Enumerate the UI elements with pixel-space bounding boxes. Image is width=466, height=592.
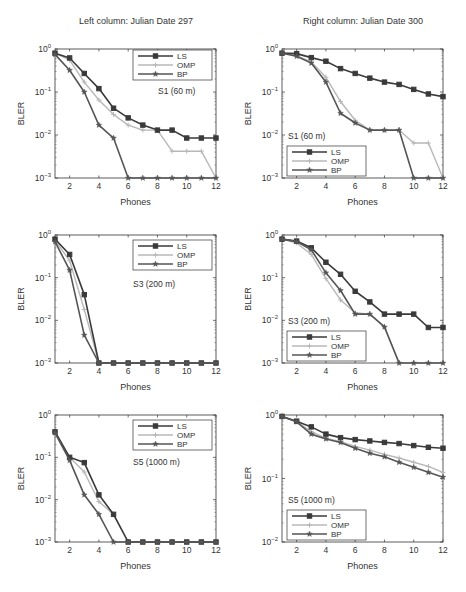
x-tick-label: 10 (182, 181, 192, 191)
square-marker (441, 446, 445, 450)
legend-label: LS (177, 52, 187, 61)
square-marker (368, 300, 372, 304)
square-marker (67, 56, 71, 60)
y-tick-label: 10−1 (262, 272, 279, 283)
x-tick-label: 6 (126, 181, 131, 191)
x-tick-label: 8 (382, 545, 387, 555)
x-tick-label: 2 (67, 181, 72, 191)
square-marker (307, 335, 311, 339)
subplot-top-left: 2468101210−310−210−1100PhonesBLERS1 (60 … (16, 43, 221, 207)
y-tick-label: 10−3 (35, 172, 52, 183)
legend: LSOMPBP (133, 420, 212, 450)
square-marker (368, 76, 372, 80)
x-tick-label: 6 (126, 545, 131, 555)
x-tick-label: 2 (294, 545, 299, 555)
square-marker (441, 325, 445, 329)
x-tick-label: 8 (155, 181, 160, 191)
x-tick-label: 6 (353, 545, 358, 555)
x-tick-label: 10 (409, 366, 419, 376)
y-tick-label: 10−3 (35, 357, 52, 368)
x-axis-label: Phones (120, 197, 151, 207)
y-tick-label: 10−3 (262, 357, 279, 368)
square-marker (412, 443, 416, 447)
legend-label: OMP (177, 431, 195, 440)
square-marker (307, 514, 311, 518)
legend-label: BP (331, 530, 342, 539)
scenario-annotation: S3 (200 m) (133, 279, 175, 289)
legend-label: BP (177, 70, 188, 79)
square-marker (324, 260, 328, 264)
square-marker (111, 106, 115, 110)
square-marker (397, 82, 401, 86)
legend-label: LS (177, 242, 187, 251)
x-tick-label: 8 (155, 545, 160, 555)
y-tick-label: 10−1 (262, 473, 279, 484)
square-marker (426, 325, 430, 329)
square-marker (338, 272, 342, 276)
y-tick-label: 10−2 (35, 129, 52, 140)
legend-label: BP (177, 440, 188, 449)
square-marker (97, 493, 101, 497)
subplot-middle-right: 2468101210−310−210−1100PhonesBLERS3 (200… (243, 229, 448, 392)
x-tick-label: 6 (353, 366, 358, 376)
y-tick-label: 10−2 (35, 494, 52, 505)
square-marker (141, 123, 145, 127)
x-tick-label: 4 (324, 366, 329, 376)
x-tick-label: 8 (155, 366, 160, 376)
legend-label: BP (177, 260, 188, 269)
y-tick-label: 100 (38, 43, 51, 54)
square-marker (338, 66, 342, 70)
x-axis-label: Phones (347, 382, 378, 392)
y-tick-label: 100 (38, 409, 51, 420)
y-tick-label: 100 (265, 229, 278, 240)
x-tick-label: 6 (126, 366, 131, 376)
x-tick-label: 12 (438, 545, 448, 555)
legend-label: OMP (331, 157, 349, 166)
y-axis-label: BLER (16, 466, 26, 490)
x-tick-label: 4 (324, 545, 329, 555)
square-marker (426, 445, 430, 449)
x-tick-label: 12 (438, 181, 448, 191)
square-marker (382, 440, 386, 444)
square-marker (397, 441, 401, 445)
legend-label: LS (177, 422, 187, 431)
legend: LSOMPBP (287, 146, 366, 176)
x-tick-label: 4 (324, 181, 329, 191)
y-axis-label: BLER (243, 101, 253, 125)
y-tick-label: 100 (265, 43, 278, 54)
square-marker (426, 92, 430, 96)
square-marker (307, 150, 311, 154)
y-tick-label: 10−3 (35, 536, 52, 547)
legend: LSOMPBP (133, 240, 212, 270)
subplot-middle-left: 2468101210−310−210−1100PhonesBLERS3 (200… (16, 229, 221, 392)
x-tick-label: 6 (353, 181, 358, 191)
x-tick-label: 12 (211, 181, 221, 191)
y-tick-label: 100 (38, 229, 51, 240)
subplot-top-right: 2468101210−310−210−1100PhonesBLERS1 (60 … (243, 43, 448, 207)
legend-label: OMP (331, 342, 349, 351)
subplot-bottom-left: 2468101210−310−210−1100PhonesBLERS5 (100… (16, 409, 221, 571)
square-marker (111, 512, 115, 516)
x-tick-label: 10 (409, 181, 419, 191)
legend-label: BP (331, 351, 342, 360)
square-marker (397, 312, 401, 316)
legend-label: BP (331, 166, 342, 175)
x-tick-label: 12 (211, 366, 221, 376)
square-marker (126, 116, 130, 120)
x-tick-label: 4 (97, 366, 102, 376)
x-tick-label: 4 (97, 545, 102, 555)
x-tick-label: 2 (67, 545, 72, 555)
legend: LSOMPBP (133, 50, 212, 80)
legend-label: LS (331, 512, 341, 521)
square-marker (185, 136, 189, 140)
x-axis-label: Phones (120, 561, 151, 571)
legend-label: OMP (177, 61, 195, 70)
x-tick-label: 10 (182, 545, 192, 555)
y-axis-label: BLER (243, 287, 253, 311)
legend-label: LS (331, 148, 341, 157)
y-tick-label: 10−1 (35, 451, 52, 462)
square-marker (82, 460, 86, 464)
square-marker (214, 136, 218, 140)
legend: LSOMPBP (287, 510, 366, 540)
scenario-annotation: S1 (60 m) (288, 131, 325, 141)
